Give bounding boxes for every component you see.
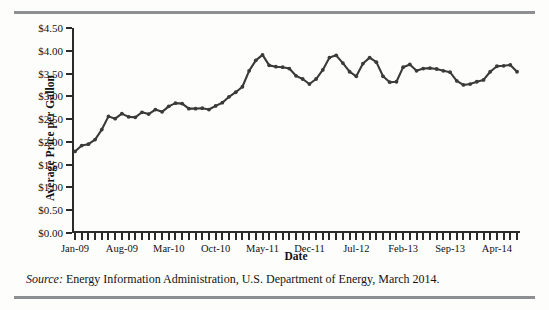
source-prefix: Source:: [26, 272, 63, 286]
x-tick: [74, 233, 76, 240]
x-tick: [349, 233, 351, 240]
x-tick: [335, 233, 337, 240]
x-tick: [489, 233, 491, 240]
data-point-marker: [234, 90, 238, 94]
data-point-marker: [113, 117, 117, 121]
x-tick: [141, 233, 143, 240]
x-tick: [402, 233, 404, 240]
data-point-marker: [374, 60, 378, 64]
figure-page: Average Price per Gallon $0.00$0.50$1.00…: [0, 0, 549, 310]
x-tick: [201, 233, 203, 240]
data-point-marker: [287, 67, 291, 71]
x-tick: [315, 233, 317, 240]
x-tick: [382, 233, 384, 240]
data-point-marker: [227, 95, 231, 99]
x-tick: [107, 233, 109, 240]
x-tick: [154, 233, 156, 240]
x-tick: [449, 233, 451, 240]
data-point-marker: [247, 69, 251, 73]
x-tick: [241, 233, 243, 240]
data-point-marker: [381, 74, 385, 78]
data-point-marker: [368, 56, 372, 60]
data-point-marker: [93, 138, 97, 142]
data-point-marker: [401, 65, 405, 69]
x-tick: [302, 233, 304, 240]
data-point-marker: [361, 62, 365, 66]
y-tick-label: $0.50: [38, 204, 63, 216]
x-tick: [174, 233, 176, 240]
x-tick: [181, 233, 183, 240]
data-point-marker: [281, 65, 285, 69]
data-point-marker: [334, 53, 338, 57]
x-tick: [87, 233, 89, 240]
data-point-marker: [214, 104, 218, 108]
x-tick: [355, 233, 357, 240]
x-tick: [496, 233, 498, 240]
y-tick-label: $1.50: [38, 159, 63, 171]
data-point-marker: [435, 67, 439, 71]
x-tick: [101, 233, 103, 240]
data-point-marker: [100, 128, 104, 132]
x-tick: [215, 233, 217, 240]
data-point-marker: [147, 112, 151, 116]
data-point-marker: [314, 77, 318, 81]
x-tick: [469, 233, 471, 240]
x-tick: [195, 233, 197, 240]
x-tick: [395, 233, 397, 240]
x-tick: [282, 233, 284, 240]
x-tick: [476, 233, 478, 240]
x-axis-title: Date: [72, 250, 520, 262]
y-tick-label: $2.00: [38, 136, 63, 148]
x-tick: [509, 233, 511, 240]
data-point-marker: [415, 69, 419, 73]
data-point-marker: [462, 83, 466, 87]
x-tick: [221, 233, 223, 240]
data-point-marker: [200, 106, 204, 110]
data-point-marker: [354, 74, 358, 78]
data-point-marker: [261, 53, 265, 57]
data-point-marker: [160, 110, 164, 114]
x-tick: [416, 233, 418, 240]
data-point-marker: [180, 102, 184, 106]
y-tick-label: $3.50: [38, 68, 63, 80]
bottom-rule: [14, 296, 535, 299]
y-tick-label: $4.50: [38, 22, 63, 34]
x-tick: [322, 233, 324, 240]
x-tick: [389, 233, 391, 240]
series-line: [75, 55, 517, 152]
x-tick: [436, 233, 438, 240]
data-point-marker: [475, 80, 479, 84]
data-point-marker: [107, 114, 111, 118]
x-tick: [268, 233, 270, 240]
data-point-marker: [395, 80, 399, 84]
data-point-marker: [127, 115, 131, 119]
data-point-marker: [348, 70, 352, 74]
x-tick: [275, 233, 277, 240]
data-point-marker: [341, 61, 345, 65]
price-line-series: [72, 28, 520, 233]
source-text: Energy Information Administration, U.S. …: [66, 272, 440, 286]
y-tick-label: $2.50: [38, 113, 63, 125]
data-point-marker: [388, 80, 392, 84]
x-tick: [121, 233, 123, 240]
data-point-marker: [328, 56, 332, 60]
plot-area: $0.00$0.50$1.00$1.50$2.00$2.50$3.00$3.50…: [72, 28, 520, 233]
data-point-marker: [80, 144, 84, 148]
y-tick-label: $0.00: [38, 227, 63, 239]
x-tick: [262, 233, 264, 240]
data-point-marker: [294, 74, 298, 78]
x-tick: [375, 233, 377, 240]
data-point-marker: [441, 69, 445, 73]
x-tick: [235, 233, 237, 240]
x-tick: [422, 233, 424, 240]
source-caption: Source: Energy Information Administratio…: [26, 272, 440, 287]
x-tick: [94, 233, 96, 240]
x-tick: [308, 233, 310, 240]
data-point-marker: [194, 107, 198, 111]
data-point-marker: [86, 142, 90, 146]
data-point-marker: [73, 150, 77, 154]
data-point-marker: [508, 63, 512, 67]
data-point-marker: [140, 110, 144, 114]
data-point-marker: [488, 70, 492, 74]
x-tick: [516, 233, 518, 240]
